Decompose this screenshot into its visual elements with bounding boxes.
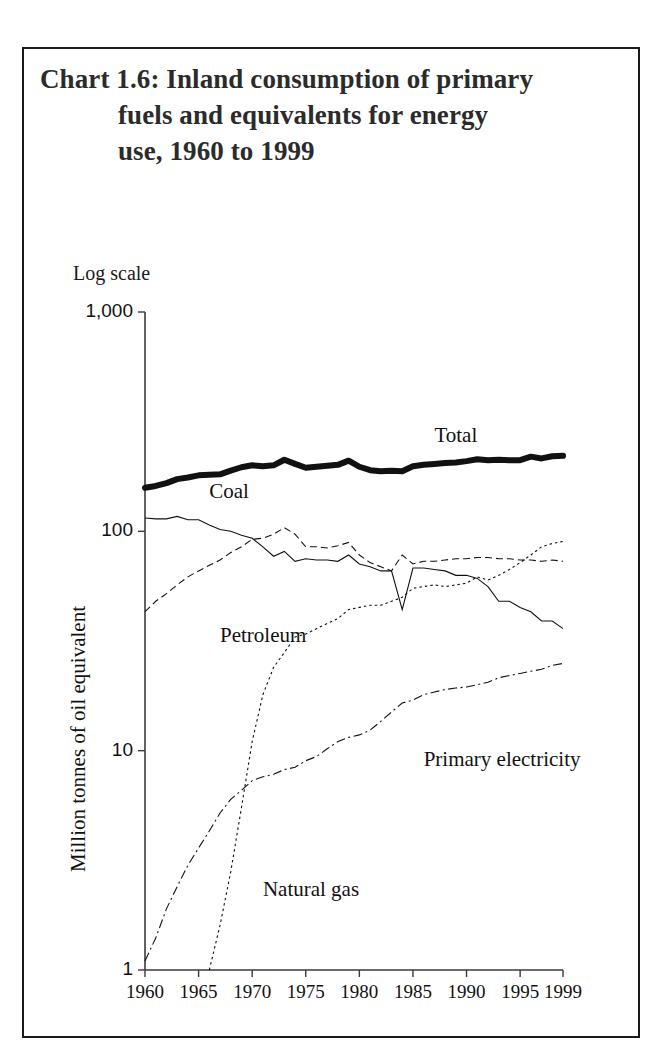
plot-area: 1101001,00019601965197019751980198519901… xyxy=(24,49,642,1040)
series-line-primary-electricity xyxy=(145,663,563,961)
series-line-petroleum xyxy=(145,528,563,612)
x-axis-tick-label: 1999 xyxy=(533,981,593,1003)
x-axis-tick-label: 1965 xyxy=(169,981,229,1003)
x-axis-tick-label: 1975 xyxy=(276,981,336,1003)
x-axis-tick-label: 1990 xyxy=(437,981,497,1003)
chart-frame: Chart 1.6: Inland consumption of primary… xyxy=(22,47,640,1038)
y-axis-tick-label: 100 xyxy=(101,519,133,541)
y-axis-tick-label: 1,000 xyxy=(85,300,133,322)
x-axis-tick-label: 1980 xyxy=(329,981,389,1003)
series-line-coal xyxy=(145,516,563,628)
y-axis-title: Million tonnes of oil equivalent xyxy=(66,606,91,872)
x-axis-tick-label: 1960 xyxy=(115,981,175,1003)
y-axis-tick-label: 1 xyxy=(122,958,133,980)
series-label-primary-electricity: Primary electricity xyxy=(424,747,581,772)
series-label-total: Total xyxy=(434,423,477,448)
log-scale-note: Log scale xyxy=(73,262,150,285)
y-axis-tick-label: 10 xyxy=(112,739,133,761)
series-label-coal: Coal xyxy=(209,479,249,504)
chart-page: Chart 1.6: Inland consumption of primary… xyxy=(0,0,658,1045)
series-line-total xyxy=(145,456,563,488)
x-axis-tick-label: 1970 xyxy=(222,981,282,1003)
x-axis-tick-label: 1985 xyxy=(383,981,443,1003)
series-label-petroleum: Petroleum xyxy=(220,623,306,648)
series-label-natural-gas: Natural gas xyxy=(263,877,359,902)
